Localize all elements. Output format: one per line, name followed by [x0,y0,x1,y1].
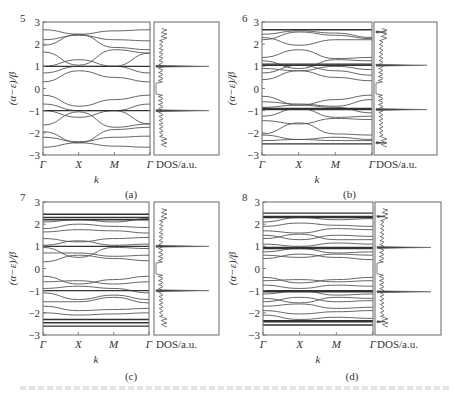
band-line [43,241,149,245]
dos-peak [377,246,431,248]
x-tick-label: Γ [39,158,47,170]
y-tick-label: −3 [28,329,40,341]
y-axis-label: (α−ε)/β [225,71,238,105]
panel-caption: (a) [125,188,138,201]
x-tick-label: M [109,158,120,170]
y-tick-label: 3 [254,16,260,28]
band-line [263,229,373,233]
x-tick-label: Γ [259,338,267,350]
band-line [263,285,373,288]
x-axis-label: k [316,353,322,365]
y-tick-label: 1 [255,240,261,252]
dos-curve [156,209,167,327]
band-line [43,306,149,310]
dos-plot-frame [154,22,219,155]
band-line [262,50,372,59]
x-axis-label: k [94,353,100,365]
panel-caption: (c) [125,370,138,383]
band-line [43,111,150,124]
dos-peak [156,245,209,247]
y-tick-label: 3 [255,196,261,208]
y-tick-label: 3 [35,196,41,208]
panel-number: 7 [20,191,26,203]
dos-peak [156,290,209,292]
band-line [43,95,150,106]
x-tick-label: Γ [39,338,47,350]
y-tick-label: 0 [254,83,260,95]
x-tick-label: M [108,338,119,350]
panel-a: 53210−1−2−3(α−ε)/βΓXMΓk(a)DOS/a.u. [6,12,219,201]
band-plot-frame [43,22,150,155]
x-tick-label: Γ [368,158,376,170]
band-line [43,253,149,256]
band-line [43,71,150,82]
band-curves [263,218,373,320]
band-line [262,95,372,105]
x-axis-label: k [315,173,321,185]
x-axis-label: k [94,173,100,185]
y-tick-label: 3 [35,16,41,28]
y-tick-label: 0 [255,263,261,275]
band-line [43,224,149,228]
band-line [43,104,150,111]
band-line [263,311,373,314]
band-line [43,53,150,66]
y-tick-label: −1 [247,105,259,117]
y-axis-label: (α−ε)/β [226,251,239,285]
panel-c: 73210−1−2−3(α−ε)/βΓXMΓk(c)DOS/a.u. [6,191,219,383]
dos-peak [156,110,209,112]
y-tick-label: 2 [254,38,260,50]
band-line [43,293,149,300]
band-line [262,118,372,124]
y-tick-label: 1 [254,60,260,72]
x-tick-label: Γ [146,158,154,170]
band-line [262,100,372,107]
band-line [262,135,372,139]
x-tick-label: M [331,338,342,350]
dos-curve [156,29,167,147]
y-tick-label: −2 [28,127,40,139]
y-tick-label: 0 [35,83,41,95]
y-tick-label: −2 [247,127,259,139]
dos-plot-frame [154,202,219,335]
dos-plot-frame [375,202,441,335]
dos-peak [376,109,427,111]
panel-number: 5 [20,12,26,24]
band-line [262,71,372,81]
dos-curve [377,209,388,327]
dos-curve [376,29,387,147]
x-tick-label: Γ [258,158,266,170]
x-tick-label: X [74,338,83,350]
band-line [263,243,373,246]
band-line [43,35,150,41]
y-axis-label: (α−ε)/β [6,251,19,285]
x-tick-label: Γ [369,338,377,350]
x-tick-label: M [330,158,341,170]
band-line [43,255,149,262]
y-tick-label: −3 [247,149,259,161]
y-tick-label: 2 [35,38,41,50]
panel-caption: (d) [346,370,359,383]
panel-number: 6 [242,12,248,24]
panel-b: 63210−1−2−3(α−ε)/βΓXMΓk(b)DOS/a.u. [225,12,437,201]
dos-axis-label: DOS/a.u. [377,338,418,350]
band-line [43,237,149,241]
dos-axis-label: DOS/a.u. [376,158,417,170]
band-line [43,230,149,233]
y-tick-label: 2 [255,218,261,230]
dos-peak [376,64,427,66]
panel-number: 8 [242,191,248,203]
band-line [43,66,150,73]
band-line [263,315,373,319]
x-tick-label: Γ [145,338,153,350]
band-line [263,223,373,226]
band-line [263,234,373,240]
band-line [43,281,149,284]
band-line [43,30,150,34]
band-curves [43,30,150,147]
panel-caption: (b) [343,188,356,201]
y-tick-label: −1 [248,285,260,297]
y-tick-label: −3 [248,329,260,341]
dos-axis-label: DOS/a.u. [156,338,197,350]
y-tick-label: −1 [28,285,40,297]
